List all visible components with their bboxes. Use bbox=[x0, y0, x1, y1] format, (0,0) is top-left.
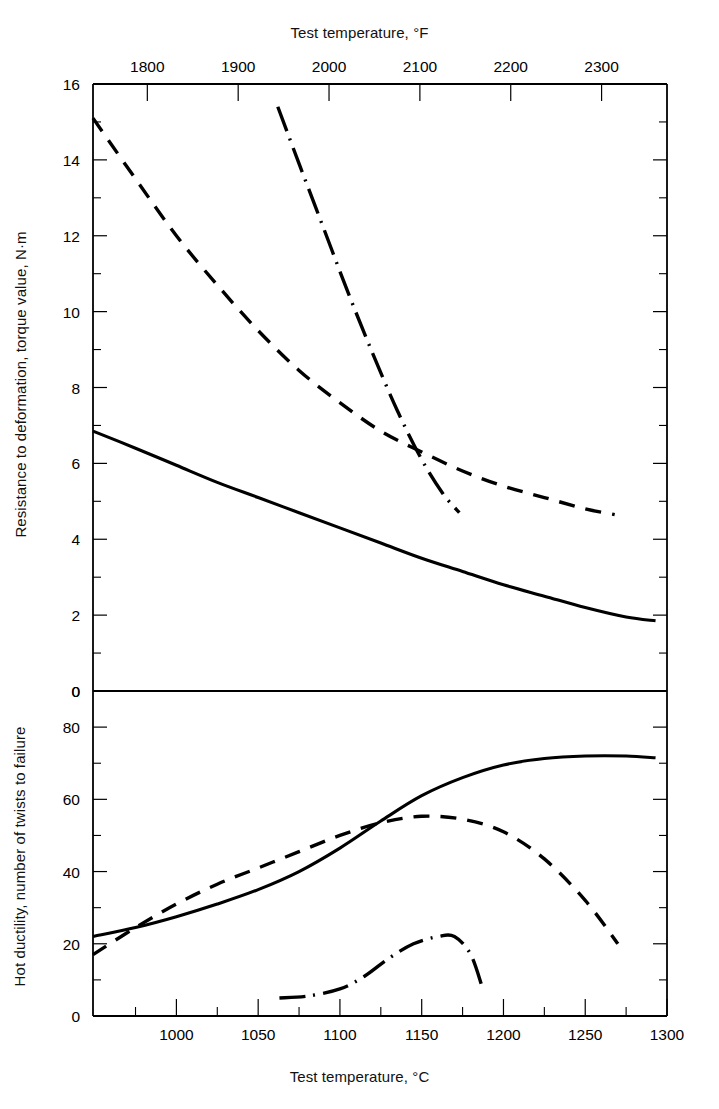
top-axis-tick-label: 2000 bbox=[312, 58, 347, 75]
bottom-axis-tick-label: 1100 bbox=[323, 1026, 357, 1043]
bottom-axis-tick-label: 1150 bbox=[405, 1026, 439, 1043]
upper-y-tick-label: 8 bbox=[71, 380, 80, 397]
top-axis-tick-label: 2100 bbox=[403, 58, 438, 75]
lower-y-tick-label: 80 bbox=[63, 719, 81, 736]
chart-plot-svg: 1800190020002100220023001000105011001150… bbox=[0, 0, 719, 1109]
lower-y-tick-label: 40 bbox=[63, 864, 81, 881]
bottom-axis-tick-label: 1200 bbox=[486, 1026, 521, 1043]
top-axis-tick-label: 1900 bbox=[221, 58, 256, 75]
top-axis-tick-label: 2200 bbox=[493, 58, 528, 75]
dashed-curve-upper bbox=[93, 118, 615, 514]
bottom-axis-tick-label: 1250 bbox=[568, 1026, 603, 1043]
bottom-axis-tick-label: 1050 bbox=[241, 1026, 276, 1043]
upper-y-tick-label: 6 bbox=[71, 455, 80, 472]
lower-y-tick-label: 60 bbox=[63, 791, 81, 808]
upper-y-tick-label: 12 bbox=[63, 228, 80, 245]
solid-curve-upper bbox=[93, 431, 656, 621]
chart-figure: Test temperature, °F Resistance to defor… bbox=[0, 0, 719, 1109]
solid-curve-lower bbox=[93, 756, 656, 937]
upper-y-tick-label: 4 bbox=[71, 531, 80, 548]
bottom-axis-tick-label: 1300 bbox=[650, 1026, 685, 1043]
top-axis-tick-label: 1800 bbox=[130, 58, 165, 75]
lower-y-tick-label: 20 bbox=[63, 936, 81, 953]
dash-dot-curve-upper bbox=[278, 107, 460, 513]
upper-y-tick-label: 14 bbox=[63, 152, 81, 169]
upper-y-tick-label: 2 bbox=[71, 607, 80, 624]
top-axis-tick-label: 2300 bbox=[584, 58, 619, 75]
dash-dot-curve-lower bbox=[279, 935, 482, 998]
lower-y-tick-label: 0 bbox=[71, 1008, 80, 1025]
lower-y-top-zero-label: 0 bbox=[71, 683, 80, 700]
bottom-axis-title: Test temperature, °C bbox=[0, 1068, 719, 1085]
upper-y-tick-label: 10 bbox=[63, 304, 81, 321]
bottom-axis-tick-label: 1000 bbox=[159, 1026, 194, 1043]
upper-y-tick-label: 16 bbox=[63, 76, 80, 93]
